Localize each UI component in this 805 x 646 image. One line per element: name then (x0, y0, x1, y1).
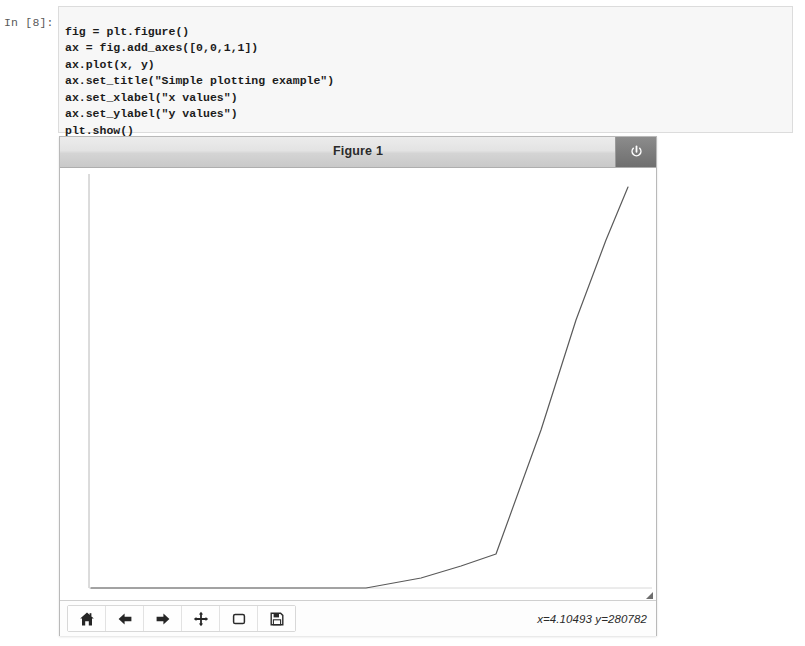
matplotlib-figure-window: Figure 1 (59, 136, 657, 636)
resize-grip-icon[interactable] (642, 586, 654, 598)
toolbar-button-group (67, 605, 296, 632)
figure-plot-canvas[interactable] (60, 168, 656, 601)
pan-button[interactable] (182, 606, 220, 631)
plot-line-chart (60, 168, 656, 600)
code-source-text[interactable]: fig = plt.figure() ax = fig.add_axes([0,… (65, 24, 334, 140)
floppy-disk-icon (269, 611, 285, 627)
notebook-input-cell: In [8]: fig = plt.figure() ax = fig.add_… (0, 0, 805, 136)
back-button[interactable] (106, 606, 144, 631)
arrow-right-icon (155, 611, 171, 627)
cell-execution-prompt: In [8]: (4, 16, 54, 29)
power-icon[interactable] (615, 137, 656, 167)
arrow-left-icon (117, 611, 133, 627)
cursor-coordinate-readout: x=4.10493 y=280782 (537, 613, 647, 625)
move-cross-icon (193, 611, 209, 627)
zoom-rect-button[interactable] (220, 606, 258, 631)
figure-window-title: Figure 1 (60, 144, 656, 158)
home-button[interactable] (68, 606, 106, 631)
data-series-line (91, 187, 628, 588)
code-editor-area[interactable]: fig = plt.figure() ax = fig.add_axes([0,… (58, 6, 793, 133)
home-icon (79, 611, 95, 627)
figure-navigation-toolbar: x=4.10493 y=280782 (60, 601, 656, 636)
figure-titlebar[interactable]: Figure 1 (60, 137, 656, 168)
forward-button[interactable] (144, 606, 182, 631)
square-icon (231, 611, 247, 627)
save-button[interactable] (258, 606, 295, 631)
